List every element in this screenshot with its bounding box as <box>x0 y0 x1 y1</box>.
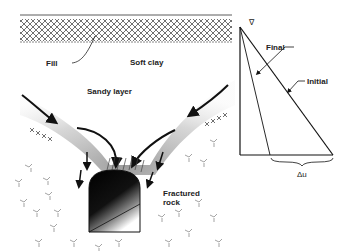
soft-clay-label: Soft clay <box>130 58 163 67</box>
pore-pressure-diagram <box>240 27 333 166</box>
tunnel <box>89 170 140 232</box>
delta-u-label: Δu <box>297 170 307 179</box>
fractured-rock-label-line1: Fractured <box>163 189 200 198</box>
water-table-icon: ∇ <box>249 18 254 27</box>
final-label: Final <box>266 43 285 52</box>
sandy-layer-label: Sandy layer <box>87 87 132 96</box>
initial-label: Initial <box>307 77 328 86</box>
fill-layer <box>20 15 232 42</box>
fill-label: Fill <box>46 59 58 68</box>
fractured-rock-label-line2: rock <box>163 198 180 207</box>
initial-line <box>240 27 333 155</box>
diagram-canvas <box>0 0 353 251</box>
